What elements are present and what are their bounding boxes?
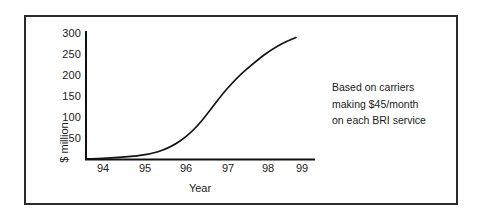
annotation-line-2: making $45/month: [332, 96, 454, 113]
x-tick-97: 97: [208, 163, 248, 174]
x-tick-96: 96: [166, 163, 206, 174]
x-tick-94: 94: [83, 163, 123, 174]
chart-annotation: Based on carriers making $45/month on ea…: [332, 79, 454, 129]
x-tick-99: 99: [282, 163, 322, 174]
y-tick-250: 250: [48, 49, 81, 60]
annotation-line-3: on each BRI service: [332, 112, 454, 129]
y-tick-200: 200: [48, 70, 81, 81]
y-axis-title-wrap: $ million: [29, 57, 43, 127]
x-axis-title: Year: [160, 182, 240, 194]
y-tick-300: 300: [48, 28, 81, 39]
annotation-line-1: Based on carriers: [332, 79, 454, 96]
x-tick-95: 95: [125, 163, 165, 174]
chart-figure: 300 250 200 150 100 50 $ million 94 95 9…: [0, 0, 480, 222]
cropped-caption-artifact: [150, 212, 350, 222]
y-tick-150: 150: [48, 91, 81, 102]
y-axis-title: $ million: [59, 103, 70, 183]
